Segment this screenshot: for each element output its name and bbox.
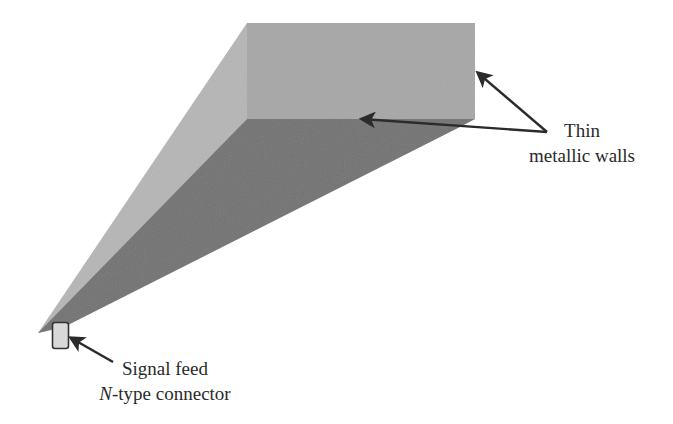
walls-label-line1: Thin	[512, 118, 652, 143]
feed-label-n: N	[99, 383, 112, 404]
horn-bottom-wall	[38, 119, 475, 333]
walls-label-line2: metallic walls	[512, 143, 652, 168]
feed-label: Signal feed N-type connector	[80, 356, 250, 406]
horn-aperture-face	[247, 23, 475, 119]
feed-label-rest: -type connector	[112, 383, 231, 404]
feed-label-line1: Signal feed	[80, 356, 250, 381]
horn-body	[38, 23, 475, 333]
walls-label: Thin metallic walls	[512, 118, 652, 168]
n-type-connector	[53, 323, 69, 349]
feed-label-line2: N-type connector	[80, 381, 250, 406]
